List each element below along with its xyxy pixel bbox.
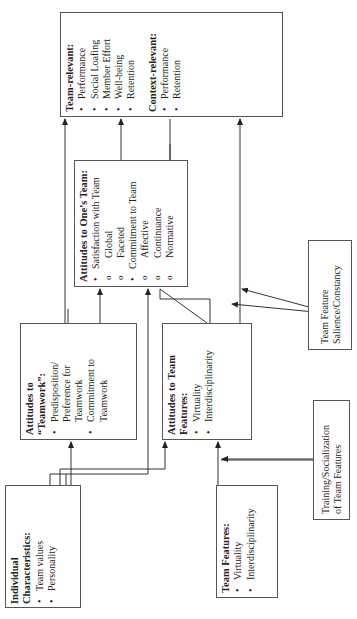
- list-item: Commitment to Teamwork: [85, 328, 110, 435]
- list-item: Interdisciplinarity: [245, 490, 257, 593]
- salience-line-1: Team Feature: [319, 246, 331, 344]
- list-subitem: Global: [103, 165, 115, 282]
- outcomes-box: Team-relevant: Performance Social Loafin…: [60, 12, 283, 117]
- attitudes-teamwork-title: Attitudes to “Teamwork”:: [24, 328, 49, 435]
- list-item: Performance: [159, 17, 171, 112]
- individual-characteristics-box: Individual Characteristics: Team values …: [5, 485, 81, 608]
- list-item: Well-being: [113, 17, 125, 112]
- list-item: Member Effort: [101, 17, 113, 112]
- list-subitem: Affective: [139, 165, 151, 282]
- attitudes-team-features-title: Attitudes to Team Features:: [166, 328, 191, 435]
- list-item: Interdisciplinarity: [203, 328, 215, 435]
- individual-characteristics-list: Team values Personality: [34, 489, 59, 604]
- training-line-2: of Team Features: [332, 406, 344, 514]
- list-item: Retention: [125, 17, 137, 112]
- team-relevant-title: Team-relevant:: [64, 17, 76, 112]
- attitudes-team-features-list: Virtuality Interdisciplinarity: [191, 328, 216, 435]
- diagram-canvas: Individual Characteristics: Team values …: [0, 0, 357, 619]
- list-item: Performance: [76, 17, 88, 112]
- list-item: Personality: [46, 489, 58, 604]
- context-relevant-title: Context-relevant:: [147, 17, 159, 112]
- list-subitem: Continuance: [152, 165, 164, 282]
- list-item: Virtuality: [232, 490, 244, 593]
- team-relevant-list: Performance Social Loafing Member Effort…: [76, 17, 137, 112]
- list-item: Satisfaction with Team: [90, 165, 102, 282]
- attitudes-ones-team-title: Attitudes to One’s Team:: [78, 165, 90, 282]
- list-item: Virtuality: [191, 328, 203, 435]
- attitudes-teamwork-box: Attitudes to “Teamwork”: Predisposition/…: [20, 323, 137, 440]
- attitudes-team-features-box: Attitudes to Team Features: Virtuality I…: [162, 323, 252, 440]
- team-features-title: Team Features:: [220, 490, 232, 593]
- context-relevant-list: Performance Retention: [159, 17, 184, 112]
- list-subitem: Faceted: [115, 165, 127, 282]
- team-features-box: Team Features: Virtuality Interdisciplin…: [216, 485, 278, 598]
- team-feature-salience-box: Team Feature Salience/Constancy: [308, 240, 352, 350]
- list-subitem: Normative: [164, 165, 176, 282]
- training-line-1: Training/Socialization: [320, 406, 332, 514]
- list-item: Social Loafing: [89, 17, 101, 112]
- attitudes-teamwork-list: Predisposition/ Preference for Teamwork …: [49, 328, 110, 435]
- list-item: Retention: [171, 17, 183, 112]
- list-item: Predisposition/ Preference for Teamwork: [49, 328, 86, 435]
- list-item: Commitment to Team: [127, 165, 139, 282]
- list-item: Team values: [34, 489, 46, 604]
- individual-characteristics-title: Individual Characteristics:: [9, 489, 34, 604]
- training-socialization-box: Training/Socialization of Team Features: [313, 400, 350, 520]
- attitudes-ones-team-list: Satisfaction with Team Global Faceted Co…: [90, 165, 176, 282]
- attitudes-ones-team-box: Attitudes to One’s Team: Satisfaction wi…: [74, 160, 188, 287]
- team-features-list: Virtuality Interdisciplinarity: [232, 490, 257, 593]
- salience-line-2: Salience/Constancy: [331, 246, 343, 344]
